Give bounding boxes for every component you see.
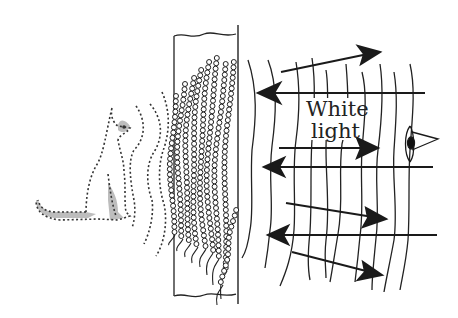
cat-object — [36, 108, 130, 220]
reflected-ray-3 — [286, 203, 386, 227]
white-light-label: White light — [304, 97, 369, 143]
object-wavefronts — [130, 92, 168, 256]
cat-eye — [122, 125, 126, 129]
incoming-ray-2 — [264, 158, 433, 176]
eye-icon — [406, 126, 439, 162]
reflected-ray-4 — [292, 252, 382, 280]
label-line-1: White — [306, 97, 369, 121]
reflection-hologram-diagram: White light — [0, 0, 458, 318]
interference-fringes — [167, 56, 238, 306]
label-line-2: light — [311, 119, 360, 143]
plate-top-edge — [174, 33, 236, 36]
reflected-ray-1 — [281, 46, 380, 72]
plate-bottom-edge — [174, 294, 236, 297]
